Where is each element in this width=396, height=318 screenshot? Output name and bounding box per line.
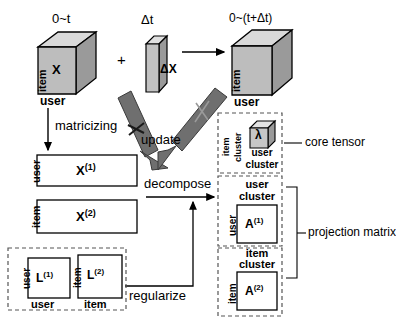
regularize-label: regularize xyxy=(129,289,186,302)
matrix-x2-label: X(2) xyxy=(76,209,96,223)
matrix-x2-item-axis: item xyxy=(31,205,42,228)
matrix-a2-label: A(2) xyxy=(245,284,263,297)
core-tensor-cluster-axis-h: cluster xyxy=(240,160,284,170)
result-tensor-item-axis: item xyxy=(231,69,242,92)
matrix-x1-label: X(1) xyxy=(76,163,96,177)
matricizing-label: matricizing xyxy=(55,119,117,132)
matrix-l1-label: L(1) xyxy=(36,271,53,284)
matrix-l2-vaxis: item xyxy=(73,267,83,288)
matrix-l2-sup: (2) xyxy=(94,267,104,276)
matrix-l2-label: L(2) xyxy=(87,268,104,281)
core-tensor-cube xyxy=(250,121,275,148)
plus-operator: + xyxy=(117,52,126,67)
matrix-l1-vaxis: user xyxy=(22,268,32,289)
base-tensor-top-label: 0~t xyxy=(52,12,70,25)
base-tensor-item-axis: item xyxy=(37,69,48,92)
delta-tensor-top-label: Δt xyxy=(141,13,153,26)
delta-tensor-face-label: ΔX xyxy=(160,63,177,75)
matrix-a2-item-axis: item xyxy=(228,283,238,304)
result-tensor-user-axis: user xyxy=(234,96,259,108)
base-tensor-face-label: X xyxy=(52,63,61,76)
matrix-l1-haxis: user xyxy=(31,299,54,310)
matrix-a1-sup: (1) xyxy=(254,216,264,225)
matrix-a1-top-cluster: cluster xyxy=(233,191,281,202)
matrix-x2-base: X xyxy=(76,209,85,224)
matrix-a2-top-cluster: cluster xyxy=(233,259,281,270)
result-tensor-top-label: 0~(t+Δt) xyxy=(229,12,272,24)
matrix-x1-sup: (1) xyxy=(85,162,96,172)
matrix-a1-top-user: user xyxy=(233,179,281,190)
matrix-x1-user-axis: user xyxy=(31,160,42,183)
core-tensor-user-axis: user xyxy=(240,148,284,158)
matrix-x1-base: X xyxy=(76,163,85,178)
matrix-a1-base: A xyxy=(245,217,254,231)
matrix-x2-sup: (2) xyxy=(85,208,96,218)
projection-matrix-annotation: projection matrix xyxy=(308,226,396,238)
update-label: update xyxy=(141,133,181,146)
matrix-a1-label: A(1) xyxy=(245,217,263,230)
update-arrow-right xyxy=(158,88,227,170)
core-tensor-annotation: core tensor xyxy=(305,136,365,148)
matrix-a2-sup: (2) xyxy=(254,283,264,292)
core-tensor-item-axis: item xyxy=(222,137,231,156)
matrix-a1-user-axis: user xyxy=(228,215,238,236)
matrix-l2-haxis: item xyxy=(84,299,107,310)
matrix-l1-sup: (1) xyxy=(43,270,53,279)
base-tensor-user-axis: user xyxy=(40,95,65,107)
projection-matrix-bracket xyxy=(286,187,306,278)
matrix-a2-base: A xyxy=(245,284,254,298)
decompose-label: decompose xyxy=(144,177,211,190)
core-tensor-lambda-label: λ xyxy=(255,129,262,141)
